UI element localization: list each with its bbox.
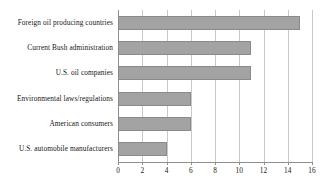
category-axis: Foreign oil producing countries Current … [0,10,116,162]
x-axis-ticks: 0246810121416 [118,162,312,182]
x-tick-mark [118,162,119,165]
bar-row [118,137,312,162]
bar-row [118,86,312,111]
x-tick-mark [239,162,240,165]
category-label-row: American consumers [0,111,116,136]
x-tick-mark [191,162,192,165]
x-tick-label: 12 [260,166,267,175]
x-tick-label: 6 [189,166,193,175]
bar-american-consumers [118,117,191,131]
category-label: U.S. oil companies [56,69,113,77]
bar-row [118,35,312,60]
x-tick-mark [142,162,143,165]
bar-row [118,10,312,35]
x-tick-label: 8 [213,166,217,175]
x-tick-mark [215,162,216,165]
category-label-row: U.S. automobile manufacturers [0,137,116,162]
x-tick-label: 0 [116,166,120,175]
category-label-row: Foreign oil producing countries [0,10,116,35]
bar-us-automobile-manufacturers [118,142,167,156]
category-label-row: Current Bush administration [0,35,116,60]
bar-row [118,111,312,136]
category-label: American consumers [49,120,113,128]
plot-area [118,10,312,162]
bar-row [118,61,312,86]
category-label: Foreign oil producing countries [18,19,113,27]
category-label-row: Environmental laws/regulations [0,86,116,111]
x-tick-label: 4 [165,166,169,175]
x-tick-mark [264,162,265,165]
category-label: Environmental laws/regulations [17,95,113,103]
category-label: U.S. automobile manufacturers [19,145,113,153]
x-tick-label: 10 [236,166,243,175]
x-tick-mark [288,162,289,165]
x-tick-label: 16 [308,166,315,175]
x-tick-mark [312,162,313,165]
x-tick-label: 14 [284,166,291,175]
x-tick-mark [167,162,168,165]
category-label-row: U.S. oil companies [0,61,116,86]
bar-chart-figure: Foreign oil producing countries Current … [0,0,322,193]
bar-foreign-oil-producing-countries [118,16,300,30]
bar-us-oil-companies [118,66,251,80]
category-label: Current Bush administration [27,44,113,52]
bar-current-bush-administration [118,41,251,55]
bar-environmental-laws-regulations [118,92,191,106]
gridline [312,10,313,162]
x-tick-label: 2 [140,166,144,175]
bars-layer [118,10,312,162]
